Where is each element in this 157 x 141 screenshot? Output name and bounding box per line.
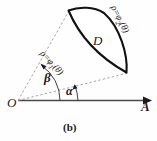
polar-axis-group bbox=[18, 97, 152, 105]
axis-arrowhead-icon bbox=[143, 97, 152, 105]
region-d-boundary bbox=[69, 8, 127, 73]
ray-alpha-dashed bbox=[18, 73, 128, 101]
ray-beta-dashed bbox=[18, 9, 70, 101]
figure-canvas bbox=[0, 0, 157, 141]
angle-arc-beta bbox=[42, 66, 61, 101]
polar-region-figure: D O A α β ρ=φ1(θ) ρ=φ2(θ) (b) bbox=[0, 0, 157, 141]
